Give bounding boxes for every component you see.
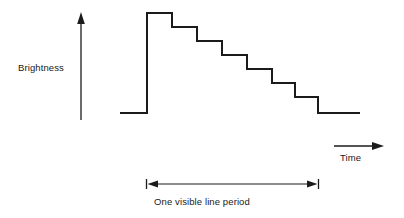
left-arrow-icon: [148, 181, 159, 188]
right-arrow-icon: [372, 142, 384, 150]
x-axis-group: [334, 142, 384, 150]
brightness-trace-group: [120, 13, 360, 113]
right-arrow-icon: [307, 181, 318, 188]
x-axis-label: Time: [340, 153, 361, 163]
line-period-caption: One visible line period: [0, 197, 404, 207]
line-period-dimension-group: [147, 179, 319, 189]
brightness-staircase-trace: [120, 13, 360, 113]
y-axis-label: Brightness: [18, 63, 64, 73]
figure-container: Brightness Time One visible line period: [0, 0, 404, 218]
y-axis-group: [77, 12, 85, 120]
staircase-waveform-figure: [0, 0, 404, 218]
up-arrow-icon: [77, 12, 85, 24]
